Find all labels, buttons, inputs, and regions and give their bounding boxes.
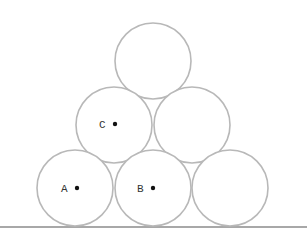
point-c-dot <box>113 122 117 126</box>
label-b: B <box>137 183 144 195</box>
circle-bottom-right <box>192 150 268 226</box>
point-b-dot <box>151 186 155 190</box>
point-a-dot <box>75 186 79 190</box>
label-a: A <box>61 183 68 195</box>
label-c: C <box>99 119 106 131</box>
circle-top <box>115 23 191 99</box>
pyramid-diagram: C A B <box>0 0 307 231</box>
